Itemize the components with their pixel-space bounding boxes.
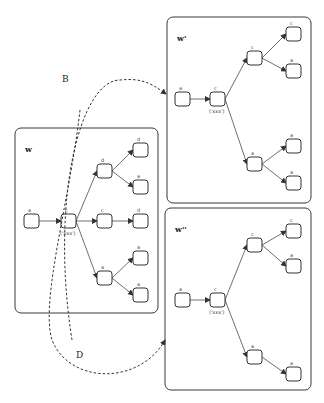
state-node[interactable]	[133, 288, 148, 302]
world-frame-w1	[167, 17, 311, 203]
node-annotation: ('xxx')	[209, 309, 225, 315]
edge-arrow	[262, 357, 286, 374]
state-node[interactable]	[286, 259, 301, 273]
node-label: a	[290, 57, 293, 63]
world-label: w''	[174, 224, 187, 234]
state-node[interactable]	[133, 251, 148, 265]
transition-b	[65, 80, 166, 340]
state-node[interactable]	[133, 143, 148, 157]
state-node[interactable]	[247, 51, 262, 65]
state-node[interactable]	[286, 64, 301, 78]
state-node[interactable]	[133, 214, 148, 228]
node-label: c	[214, 286, 217, 292]
node-label: c	[101, 207, 104, 213]
node-label: a	[290, 360, 293, 366]
node-label: a	[137, 281, 140, 287]
edge-arrow	[112, 278, 133, 295]
state-node[interactable]	[286, 139, 301, 153]
node-label: a	[290, 132, 293, 138]
world-label: w	[24, 144, 33, 154]
state-node[interactable]	[61, 214, 76, 228]
node-label: a	[28, 207, 31, 213]
state-node[interactable]	[247, 157, 262, 171]
edge-arrow	[262, 245, 286, 266]
node-label: c	[214, 85, 217, 91]
node-label: a	[137, 173, 140, 179]
state-node[interactable]	[286, 27, 301, 41]
node-label: a	[179, 286, 182, 292]
node-annotation: ('xxx')	[209, 108, 225, 114]
world-label: w'	[176, 33, 186, 43]
node-label: d	[101, 157, 104, 163]
state-node[interactable]	[286, 367, 301, 381]
transition-label: B	[62, 74, 69, 84]
edge-arrow	[76, 221, 97, 278]
state-node[interactable]	[286, 176, 301, 190]
edge-arrow	[76, 171, 97, 221]
node-label: d	[137, 207, 140, 213]
state-node[interactable]	[286, 224, 301, 238]
node-label: c	[290, 20, 293, 26]
state-node[interactable]	[247, 350, 262, 364]
node-label: a	[101, 264, 104, 270]
state-node[interactable]	[175, 293, 190, 307]
state-node[interactable]	[97, 164, 112, 178]
node-label: a	[290, 252, 293, 258]
edge-arrow	[225, 58, 247, 99]
node-label: a	[137, 244, 140, 250]
node-label: c	[251, 231, 254, 237]
edge-arrow	[112, 171, 133, 187]
node-label: c	[290, 217, 293, 223]
edge-arrow	[225, 245, 247, 300]
state-node[interactable]	[210, 92, 225, 106]
edge-arrow	[225, 300, 247, 357]
diagram-canvas: ww'w'' ac('xxx')ddacdaaaac('xxx')ccaaaaa…	[0, 0, 324, 403]
edge-arrow	[262, 231, 286, 245]
node-label: a	[290, 169, 293, 175]
state-node[interactable]	[175, 92, 190, 106]
state-node[interactable]	[97, 214, 112, 228]
state-node[interactable]	[133, 180, 148, 194]
edge-arrow	[262, 58, 286, 71]
node-label: a	[179, 85, 182, 91]
edge-arrow	[112, 258, 133, 278]
edge-arrow	[225, 99, 247, 164]
edge-arrow	[262, 146, 286, 164]
node-label: c	[251, 44, 254, 50]
edge-arrow	[262, 164, 286, 183]
node-label: a	[251, 343, 254, 349]
node-label: a	[251, 150, 254, 156]
state-node[interactable]	[210, 293, 225, 307]
edge-arrow	[112, 150, 133, 171]
node-label: d	[137, 136, 140, 142]
state-node[interactable]	[97, 271, 112, 285]
state-node[interactable]	[247, 238, 262, 252]
edge-arrow	[262, 34, 286, 58]
state-node[interactable]	[24, 214, 39, 228]
node-annotation: ('xxx')	[60, 230, 76, 236]
transition-label: D	[76, 350, 83, 360]
